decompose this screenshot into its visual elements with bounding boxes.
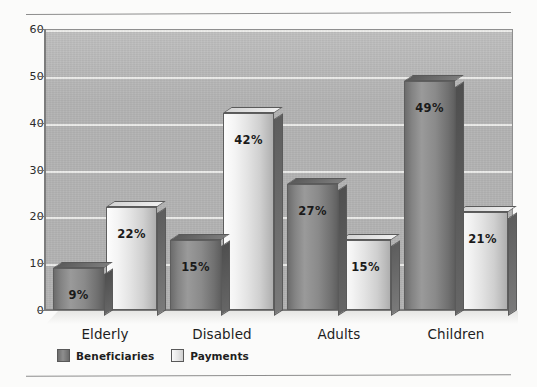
bar-elderly-payments[interactable]: 22% (106, 207, 157, 310)
bar-front-face (170, 240, 221, 310)
bar-side-face (508, 212, 517, 316)
bar-value-label: 15% (170, 260, 221, 274)
bar-front-face (287, 184, 338, 310)
y-axis-line (44, 29, 46, 311)
gridline (45, 30, 512, 32)
bar-value-label: 22% (106, 227, 157, 241)
bar-side-face (391, 240, 400, 316)
y-axis-ticks: 0102030405060 (0, 0, 44, 387)
x-axis-label-adults: Adults (279, 326, 399, 342)
x-axis-label-children: Children (396, 326, 516, 342)
y-axis-tick-mark (37, 123, 44, 124)
y-axis-tick-mark (37, 216, 44, 217)
bar-value-label: 9% (53, 288, 104, 302)
bar-side-face (274, 113, 283, 316)
bar-value-label: 21% (457, 232, 508, 246)
bar-children-payments[interactable]: 21% (457, 212, 508, 310)
chart-page: 9%22%15%42%27%15%49%21% 0102030405060 El… (0, 0, 537, 387)
legend-swatch-icon (171, 349, 184, 362)
bar-front-face (404, 81, 455, 310)
bar-value-label: 27% (287, 204, 338, 218)
bar-elderly-beneficiaries[interactable]: 9% (53, 268, 104, 310)
y-axis-tick-mark (37, 263, 44, 264)
bar-side-face (338, 184, 347, 316)
bar-side-face (221, 240, 230, 316)
bar-disabled-beneficiaries[interactable]: 15% (170, 240, 221, 310)
plot-area: 9%22%15%42%27%15%49%21% (45, 29, 513, 310)
bar-front-face (457, 212, 508, 310)
legend-label: Beneficiaries (76, 350, 154, 362)
bar-value-label: 42% (223, 133, 274, 147)
y-axis-tick-mark (37, 29, 44, 30)
x-axis-label-elderly: Elderly (45, 326, 165, 342)
chart-legend: BeneficiariesPayments (57, 349, 249, 362)
x-axis-label-disabled: Disabled (162, 326, 282, 342)
legend-item-payments[interactable]: Payments (171, 349, 249, 362)
bar-children-beneficiaries[interactable]: 49% (404, 81, 455, 310)
bar-disabled-payments[interactable]: 42% (223, 113, 274, 310)
bar-value-label: 49% (404, 101, 455, 115)
legend-label: Payments (190, 350, 249, 362)
bar-side-face (104, 268, 113, 316)
y-axis-tick-mark (37, 170, 44, 171)
bar-side-face (455, 81, 464, 316)
bar-front-face (340, 240, 391, 310)
bar-chart: 9%22%15%42%27%15%49%21% 0102030405060 El… (0, 0, 537, 387)
bar-adults-beneficiaries[interactable]: 27% (287, 184, 338, 310)
y-axis-tick-mark (37, 76, 44, 77)
bar-value-label: 15% (340, 260, 391, 274)
bar-adults-payments[interactable]: 15% (340, 240, 391, 310)
bar-front-face (106, 207, 157, 310)
legend-swatch-icon (57, 349, 70, 362)
bar-side-face (157, 207, 166, 316)
y-axis-tick-mark (37, 310, 44, 311)
chart-floor-shadow (46, 311, 518, 324)
legend-item-beneficiaries[interactable]: Beneficiaries (57, 349, 154, 362)
